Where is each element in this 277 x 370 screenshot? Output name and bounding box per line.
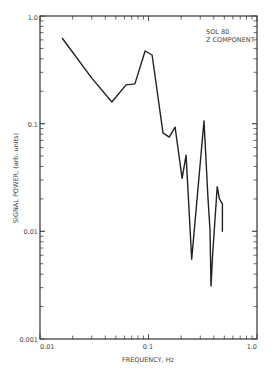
annotation-line1: SOL 80 (206, 28, 229, 36)
ytick-label-0-01: 0.01 (24, 228, 38, 236)
signal-power-line (62, 38, 222, 286)
chart: SOL 80 Z COMPONENT 1.0 0.1 0.01 0.001 0.… (0, 0, 277, 370)
ytick-label-0-001: 0.001 (19, 336, 38, 344)
xtick-label-1: 1.0 (247, 343, 257, 351)
plot-frame (40, 16, 257, 339)
x-axis-label: FREQUENCY, Hz (122, 356, 175, 364)
xtick-label-0-01: 0.01 (40, 343, 54, 351)
y-axis-label: SIGNAL POWER, (arb. units) (12, 133, 20, 223)
ytick-label-0-1: 0.1 (28, 121, 38, 129)
axis-ticks (40, 16, 257, 339)
annotation-line2: Z COMPONENT (206, 36, 255, 44)
ytick-label-1: 1.0 (28, 14, 38, 22)
xtick-label-0-1: 0.1 (143, 343, 153, 351)
